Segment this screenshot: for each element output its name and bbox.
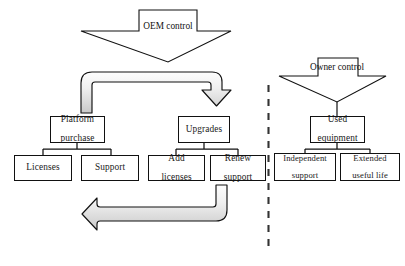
node-platform-purchase-line1: Platform: [52, 115, 103, 124]
node-extended-useful-life-line1: Extended: [342, 154, 398, 163]
node-add-licenses-line1: Add: [150, 154, 203, 163]
node-add-licenses[interactable]: Add licenses: [148, 155, 205, 181]
node-support-label: Support: [83, 163, 137, 172]
owner-control-label-line1: Owner: [310, 62, 335, 72]
node-support[interactable]: Support: [81, 155, 139, 181]
bottom-cycle-arrow: [82, 185, 227, 230]
node-renew-support-line1: Renew: [212, 154, 264, 163]
node-extended-useful-life[interactable]: Extended useful life: [340, 153, 400, 181]
node-independent-support-line2: support: [276, 171, 334, 180]
owner-control-label-line2: control: [338, 62, 364, 72]
node-platform-purchase[interactable]: Platform purchase: [50, 116, 105, 143]
node-used-equipment-line2: equipment: [312, 134, 363, 143]
oem-control-label-line1: OEM: [143, 21, 164, 31]
node-licenses-label: Licenses: [16, 163, 70, 172]
diagram-canvas: OEM control Owner control Platform purch…: [0, 0, 405, 266]
node-independent-support[interactable]: Independent support: [274, 153, 336, 181]
used-equipment-connectors: [305, 143, 370, 153]
node-add-licenses-line2: licenses: [150, 173, 203, 182]
node-extended-useful-life-line2: useful life: [342, 171, 398, 180]
node-platform-purchase-line2: purchase: [52, 134, 103, 143]
node-upgrades-label: Upgrades: [180, 125, 228, 134]
oem-control-label-line2: control: [166, 21, 192, 31]
oem-control-arrow-shape: [81, 10, 231, 62]
top-cycle-arrow: [81, 72, 231, 113]
oem-control-label: OEM control: [132, 22, 204, 32]
platform-purchase-connectors: [43, 143, 111, 155]
node-independent-support-line1: Independent: [276, 154, 334, 163]
node-renew-support[interactable]: Renew support: [210, 155, 266, 181]
node-upgrades[interactable]: Upgrades: [178, 116, 230, 143]
node-used-equipment-line1: Used: [312, 115, 363, 124]
node-licenses[interactable]: Licenses: [14, 155, 72, 181]
node-used-equipment[interactable]: Used equipment: [310, 116, 365, 143]
owner-control-label: Owner control: [306, 63, 368, 73]
node-renew-support-line2: support: [212, 173, 264, 182]
